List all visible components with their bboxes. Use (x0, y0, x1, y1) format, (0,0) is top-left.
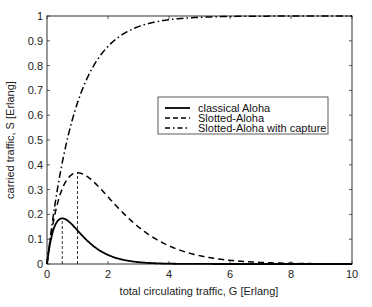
y-tick-label: 0.8 (28, 60, 43, 72)
y-axis-label: carried traffic, S [Erlang] (4, 81, 16, 199)
x-tick-label: 6 (227, 268, 233, 280)
y-tick-label: 1 (37, 10, 43, 22)
x-tick-label: 2 (105, 268, 111, 280)
x-tick-label: 0 (44, 268, 50, 280)
y-tick-label: 0.9 (28, 35, 43, 47)
chart: 00.10.20.30.40.50.60.70.80.91 0246810 to… (0, 0, 372, 307)
legend: classical Aloha Slotted-Aloha Slotted-Al… (158, 97, 328, 134)
plot-frame (47, 16, 352, 264)
y-tick-label: 0.6 (28, 109, 43, 121)
x-tick-label: 10 (346, 268, 358, 280)
y-tick-label: 0 (37, 258, 43, 270)
x-tick-label: 4 (166, 268, 172, 280)
y-tick-label: 0.5 (28, 134, 43, 146)
y-tick-label: 0.3 (28, 184, 43, 196)
x-tick-label: 8 (288, 268, 294, 280)
y-tick-label: 0.7 (28, 84, 43, 96)
legend-label-capture: Slotted-Aloha with capture (198, 122, 326, 134)
y-tick-label: 0.2 (28, 208, 43, 220)
plot-area (47, 16, 352, 264)
y-tick-label: 0.4 (28, 159, 43, 171)
y-tick-label: 0.1 (28, 233, 43, 245)
x-axis-label: total circulating traffic, G [Erlang] (120, 285, 279, 297)
